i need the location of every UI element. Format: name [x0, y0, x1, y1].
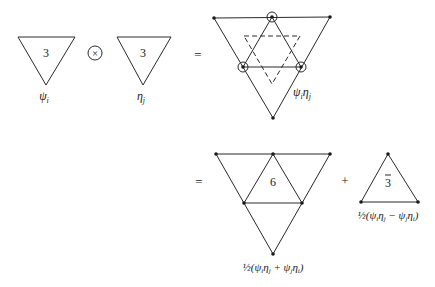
triangle-psi-label: 3 — [43, 46, 49, 60]
psi-caption: ψi — [39, 89, 49, 105]
plus-sign: + — [341, 173, 348, 188]
equals-sign-1: = — [194, 47, 201, 62]
equals-sign-2: = — [195, 174, 202, 189]
svg-text:×: × — [92, 48, 98, 59]
triangle-eta-label: 3 — [140, 46, 146, 60]
product-weight-diagram: ψiηj — [212, 12, 332, 120]
antitriplet-caption: ½(ψiηj − ψjηi) — [358, 209, 419, 223]
product-caption: ψiηj — [293, 85, 312, 101]
sextet-caption: ½(ψiηj + ψjηi) — [243, 261, 304, 275]
eta-caption: ηj — [137, 89, 146, 105]
antitriplet-weight-diagram: 3 ½(ψiηj − ψjηi) — [358, 152, 420, 223]
antitriplet-label: 3 — [385, 176, 391, 190]
tensor-product-operator: × — [88, 46, 102, 60]
su3-product-diagram: 3 ψi × 3 ηj = ψiηj = — [0, 0, 435, 287]
triangle-psi: 3 ψi — [18, 37, 75, 105]
triangle-eta: 3 ηj — [117, 37, 171, 105]
sextet-label: 6 — [270, 175, 276, 189]
sextet-weight-diagram: 6 ½(ψiηj + ψjηi) — [214, 152, 332, 275]
